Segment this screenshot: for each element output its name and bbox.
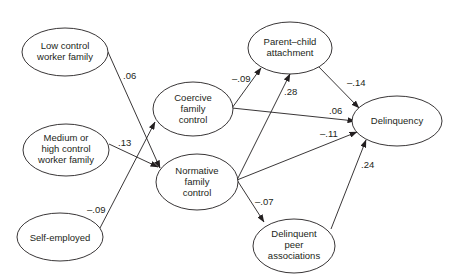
svg-text:high control: high control: [41, 143, 90, 154]
svg-text:control: control: [183, 187, 212, 198]
path-diagram: .06 .13 –.09 –.09 .06 .28 –.11 –.07 –.14…: [0, 0, 452, 279]
svg-text:Delinquency: Delinquency: [371, 115, 424, 126]
node-delinquent-peer-associations: Delinquent peer associations: [253, 219, 335, 273]
label-peer-delinquency: .24: [361, 159, 374, 170]
node-delinquency: Delinquency: [352, 96, 442, 146]
svg-text:control: control: [179, 114, 208, 125]
svg-text:Medium or: Medium or: [44, 132, 89, 143]
svg-text:Parent–child: Parent–child: [264, 36, 317, 47]
label-coercive-parent: –.09: [232, 73, 251, 84]
label-coercive-delinquency: .06: [329, 105, 342, 116]
svg-text:family: family: [181, 103, 206, 114]
node-parent-child-attachment: Parent–child attachment: [248, 22, 332, 74]
svg-text:worker family: worker family: [36, 51, 93, 62]
label-normative-peer: –.07: [255, 196, 274, 207]
node-coercive-family-control: Coercive family control: [153, 82, 233, 136]
label-parent-delinquency: –.14: [347, 77, 366, 88]
label-normative-delinquency: –.11: [320, 128, 338, 139]
node-medium-high-control-worker-family: Medium or high control worker family: [23, 124, 109, 176]
svg-text:peer: peer: [284, 239, 303, 250]
svg-text:worker family: worker family: [37, 154, 94, 165]
svg-text:attachment: attachment: [267, 47, 314, 58]
edge-normative-to-delinquency: [237, 132, 357, 180]
svg-text:Delinquent: Delinquent: [271, 228, 317, 239]
svg-text:Normative: Normative: [175, 165, 218, 176]
edge-peer-to-delinquency: [331, 140, 366, 229]
label-self-coercive: –.09: [87, 204, 106, 215]
label-low-normative: .06: [123, 70, 136, 81]
svg-text:Low control: Low control: [41, 40, 90, 51]
label-normative-parent: .28: [284, 86, 297, 97]
node-self-employed: Self-employed: [17, 213, 103, 261]
svg-text:Self-employed: Self-employed: [30, 232, 91, 243]
svg-text:Coercive: Coercive: [174, 92, 212, 103]
svg-text:associations: associations: [268, 250, 321, 261]
node-normative-family-control: Normative family control: [156, 154, 238, 210]
svg-text:family: family: [185, 176, 210, 187]
label-medium-normative: .13: [118, 137, 131, 148]
node-low-control-worker-family: Low control worker family: [22, 28, 108, 76]
